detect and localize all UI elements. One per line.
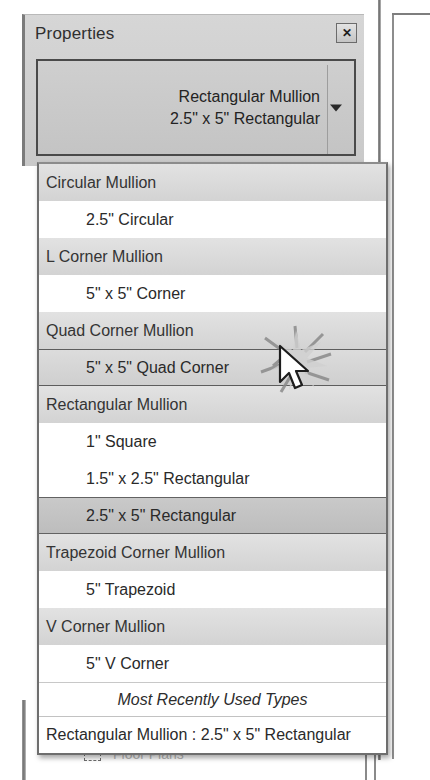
dropdown-group-header: V Corner Mullion — [39, 608, 386, 645]
type-selector-divider — [327, 65, 328, 154]
type-selector-family: Rectangular Mullion — [170, 86, 320, 108]
revit-properties-screen: Views (all) Floor Plans Properties ✕ Rec… — [0, 0, 430, 780]
properties-palette: Properties ✕ Rectangular Mullion 2.5" x … — [22, 14, 364, 166]
dropdown-item[interactable]: 1" Square — [39, 423, 386, 460]
close-icon[interactable]: ✕ — [336, 23, 357, 43]
dropdown-item[interactable]: 1.5" x 2.5" Rectangular — [39, 460, 386, 497]
dropdown-group-header: L Corner Mullion — [39, 238, 386, 275]
dropdown-group-header: Quad Corner Mullion — [39, 312, 386, 349]
dropdown-item[interactable]: 5" Trapezoid — [39, 571, 386, 608]
panel-border-right — [392, 13, 394, 759]
dropdown-item[interactable]: 2.5" x 5" Rectangular — [39, 497, 386, 534]
type-selector[interactable]: Rectangular Mullion 2.5" x 5" Rectangula… — [36, 59, 356, 156]
dropdown-list: Circular Mullion2.5" CircularL Corner Mu… — [39, 164, 386, 682]
dropdown-item[interactable]: 5" x 5" Quad Corner — [39, 349, 386, 386]
dropdown-item[interactable]: 5" V Corner — [39, 645, 386, 682]
chevron-down-icon[interactable] — [330, 104, 342, 111]
dropdown-group-header: Circular Mullion — [39, 164, 386, 201]
mru-list-item[interactable]: Rectangular Mullion : 2.5" x 5" Rectangu… — [39, 716, 386, 753]
palette-title: Properties — [35, 24, 114, 44]
dropdown-group-header: Rectangular Mullion — [39, 386, 386, 423]
dropdown-item[interactable]: 2.5" Circular — [39, 201, 386, 238]
type-selector-type: 2.5" x 5" Rectangular — [170, 108, 320, 130]
panel-border-top — [392, 13, 430, 15]
type-selector-dropdown[interactable]: Circular Mullion2.5" CircularL Corner Mu… — [37, 162, 388, 755]
dropdown-item[interactable]: 5" x 5" Corner — [39, 275, 386, 312]
project-browser-edge — [22, 700, 26, 780]
mru-header: Most Recently Used Types — [39, 682, 386, 716]
dropdown-group-header: Trapezoid Corner Mullion — [39, 534, 386, 571]
